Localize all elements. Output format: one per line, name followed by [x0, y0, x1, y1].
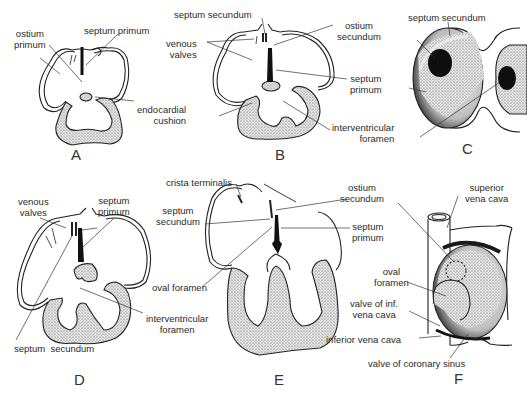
panel-a-drawing	[39, 47, 128, 145]
panel-letter-c: C	[462, 140, 473, 157]
panel-c-drawing	[413, 28, 527, 132]
label-e-ostium-secundum: ostium secundum	[340, 182, 384, 204]
label-c-septum-secundum: septum secundum	[408, 12, 486, 23]
label-f-valve-coronary-sinus: valve of coronary sinus	[368, 358, 465, 369]
panel-letter-a: A	[71, 146, 81, 163]
label-e-crista-terminalis: crista terminalis	[166, 177, 232, 188]
panel-d-drawing	[17, 208, 150, 344]
label-f-valve-inf-vena-cava: valve of inf. vena cava	[350, 298, 398, 320]
label-b-septum-primum: septum primum	[350, 73, 382, 95]
panel-letter-b: B	[275, 146, 285, 163]
label-e-septum-secundum: septum secundum	[156, 205, 200, 227]
panel-letter-d: D	[74, 371, 85, 388]
panel-a-leader-lines	[40, 34, 134, 101]
label-b-septum-secundum: septum secundum	[174, 9, 252, 20]
label-d-septum-secundum: septum secundum	[14, 343, 94, 354]
label-a-ostium-primum: ostium primum	[14, 28, 46, 50]
panel-letter-f: F	[454, 370, 463, 387]
label-d-venous-valves: venous valves	[18, 196, 49, 218]
panel-b-leader-lines	[207, 18, 347, 130]
label-b-venous-valves: venous valves	[166, 38, 197, 60]
label-b-ostium-secundum: ostium secundum	[337, 20, 381, 42]
label-a-endocardial-cushion: endocardial cushion	[137, 104, 186, 126]
panel-f-drawing	[428, 213, 512, 345]
panel-letter-e: E	[274, 371, 284, 388]
label-d-interventricular-foramen: interventricular foramen	[146, 313, 208, 335]
label-a-septum-primum: septum primum	[84, 25, 149, 36]
label-f-inferior-vena-cava: inferior vena cava	[326, 334, 401, 345]
label-f-oval-foramen: oval foramen	[374, 266, 409, 288]
label-d-septum-primum: septum primum	[98, 195, 130, 217]
label-f-superior-vena-cava: superior vena cava	[465, 182, 508, 204]
label-e-oval-foramen: oval foramen	[152, 282, 207, 293]
heart-development-figure	[0, 0, 527, 394]
label-b-interventricular-foramen: interventricular foramen	[332, 122, 394, 144]
panel-e-drawing	[205, 184, 341, 355]
label-e-septum-primum: septum primum	[352, 221, 384, 243]
panel-b-drawing	[213, 24, 334, 139]
